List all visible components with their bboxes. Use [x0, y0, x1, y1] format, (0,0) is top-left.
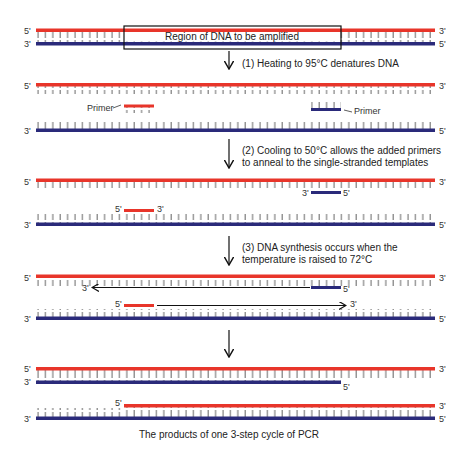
step-2-text-line1: (2) Cooling to 50°C allows the added pri… [242, 145, 441, 156]
svg-text:5': 5' [343, 382, 350, 392]
product-1: 5' 3' 3' 5' [24, 364, 446, 392]
annealed-primer-blue [311, 191, 341, 194]
svg-text:5': 5' [343, 284, 350, 294]
svg-text:5': 5' [24, 273, 31, 283]
top-template-strand [36, 83, 435, 87]
label-3prime: 3' [24, 39, 31, 49]
denatured-strands: 5' 3' Primer Primer 3' 5' [24, 81, 446, 136]
bottom-template-strand [36, 129, 435, 133]
step-2-text-line2: to anneal to the single-stranded templat… [242, 157, 428, 168]
label-3prime: 3' [439, 26, 446, 36]
svg-text:3': 3' [302, 188, 309, 198]
original-dsdna: 5' 3' 3' 5' Region of DNA to be amplifie… [24, 26, 446, 49]
svg-text:5': 5' [439, 414, 446, 424]
caption: The products of one 3-step cycle of PCR [139, 429, 319, 440]
annealed-primers: 5' 3' 3' 5' 5' 3' 3' 5' [24, 177, 446, 230]
svg-text:3': 3' [439, 273, 446, 283]
label-5prime: 5' [439, 39, 446, 49]
svg-text:5': 5' [24, 177, 31, 187]
svg-text:3': 3' [439, 81, 446, 91]
svg-text:3': 3' [24, 377, 31, 387]
svg-text:3': 3' [24, 314, 31, 324]
region-label: Region of DNA to be amplified [165, 31, 299, 42]
svg-text:3': 3' [82, 283, 89, 293]
product-2: 5' 3' 3' 5' [24, 398, 446, 424]
svg-text:5': 5' [343, 188, 350, 198]
step-3-text-line2: temperature is raised to 72°C [242, 254, 372, 265]
svg-text:3': 3' [439, 177, 446, 187]
annealed-primer-red [124, 209, 154, 212]
svg-text:3': 3' [157, 204, 164, 214]
svg-text:5': 5' [439, 220, 446, 230]
svg-text:5': 5' [439, 314, 446, 324]
svg-text:5': 5' [115, 299, 122, 309]
svg-text:3': 3' [24, 126, 31, 136]
primer-red [124, 105, 154, 114]
svg-text:5': 5' [24, 364, 31, 374]
svg-text:3': 3' [24, 414, 31, 424]
svg-text:3': 3' [24, 220, 31, 230]
label-5prime: 5' [24, 26, 31, 36]
svg-text:3': 3' [439, 364, 446, 374]
svg-text:3': 3' [439, 401, 446, 411]
svg-text:5': 5' [115, 398, 122, 408]
pcr-diagram: 5' 3' 3' 5' Region of DNA to be amplifie… [0, 0, 471, 453]
step-3-text-line1: (3) DNA synthesis occurs when the [242, 242, 398, 253]
step-1-text: (1) Heating to 95°C denatures DNA [242, 58, 399, 69]
primer-label-right: Primer [354, 106, 381, 116]
svg-text:5': 5' [439, 126, 446, 136]
svg-text:5': 5' [24, 81, 31, 91]
primer-label-left: Primer [87, 103, 114, 113]
dna-synthesis: 5' 3' 3' 5' 5' 3' 3' 5' [24, 273, 446, 324]
primer-blue [311, 102, 341, 111]
svg-text:3': 3' [350, 299, 357, 309]
svg-text:5': 5' [115, 204, 122, 214]
